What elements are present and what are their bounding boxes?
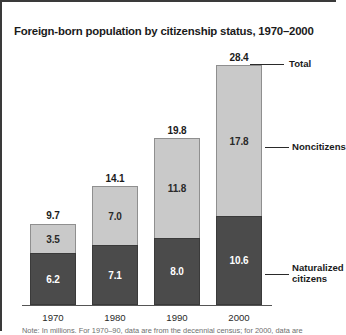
x-tick-label-1970: 1970 xyxy=(30,312,76,323)
leader-line-total xyxy=(250,64,284,65)
x-tick-label-1990: 1990 xyxy=(154,312,200,323)
bar-stack-2000: 17.8 10.6 xyxy=(216,65,262,305)
bar-stack-1990: 11.8 8.0 xyxy=(154,138,200,305)
bar-group-1970: 9.7 3.5 6.2 xyxy=(30,224,76,305)
x-axis-baseline xyxy=(22,305,272,306)
callout-label-noncitizens: Noncitizens xyxy=(292,141,346,152)
bar-value-naturalized-1970: 6.2 xyxy=(46,274,60,285)
bar-value-noncitizens-1970: 3.5 xyxy=(46,234,60,245)
bar-stack-1970: 3.5 6.2 xyxy=(30,224,76,305)
bar-stack-1980: 7.0 7.1 xyxy=(92,186,138,305)
bar-total-label-2000: 28.4 xyxy=(216,52,262,63)
bar-segment-naturalized-1970: 6.2 xyxy=(30,253,76,305)
leader-line-noncitizens xyxy=(265,147,289,148)
bar-segment-naturalized-1980: 7.1 xyxy=(92,245,138,305)
bar-total-label-1980: 14.1 xyxy=(92,173,138,184)
bar-value-noncitizens-1990: 11.8 xyxy=(168,183,187,194)
bar-group-2000: 28.4 17.8 10.6 xyxy=(216,65,262,305)
bar-value-naturalized-2000: 10.6 xyxy=(229,255,248,266)
bar-segment-noncitizens-1990: 11.8 xyxy=(154,138,200,238)
bar-value-noncitizens-2000: 17.8 xyxy=(229,136,248,147)
bar-total-label-1990: 19.8 xyxy=(154,125,200,136)
callout-label-naturalized-line2: citizens xyxy=(292,273,344,284)
bar-group-1980: 14.1 7.0 7.1 xyxy=(92,186,138,305)
x-tick-label-1980: 1980 xyxy=(92,312,138,323)
x-tick-label-2000: 2000 xyxy=(216,312,262,323)
bar-total-label-1970: 9.7 xyxy=(30,210,76,221)
leader-line-naturalized-citizens xyxy=(265,274,289,275)
bar-segment-noncitizens-2000: 17.8 xyxy=(216,65,262,216)
bar-segment-noncitizens-1980: 7.0 xyxy=(92,186,138,245)
bar-segment-naturalized-1990: 8.0 xyxy=(154,238,200,305)
callout-label-naturalized-line1: Naturalized xyxy=(292,262,344,273)
plot-area: 9.7 3.5 6.2 1970 14.1 7.0 7.1 xyxy=(22,54,272,306)
callout-label-naturalized-citizens: Naturalized citizens xyxy=(292,262,344,284)
bar-value-naturalized-1980: 7.1 xyxy=(108,270,122,281)
callout-label-total: Total xyxy=(289,58,311,69)
bar-value-noncitizens-1980: 7.0 xyxy=(108,211,122,222)
bar-group-1990: 19.8 11.8 8.0 xyxy=(154,138,200,305)
title-bar: Foreign-born population by citizenship s… xyxy=(14,20,324,42)
bar-segment-noncitizens-1970: 3.5 xyxy=(30,224,76,253)
bar-segment-naturalized-2000: 10.6 xyxy=(216,216,262,305)
chart-footnote: Note: In millions. For 1970–90, data are… xyxy=(22,326,332,335)
page-title: Foreign-born population by citizenship s… xyxy=(14,20,324,42)
bar-value-naturalized-1990: 8.0 xyxy=(170,266,184,277)
